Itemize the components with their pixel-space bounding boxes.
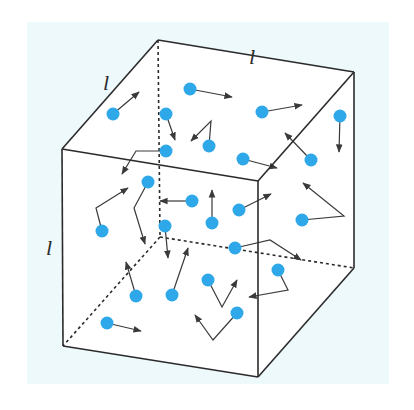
gas-molecule xyxy=(231,307,244,320)
edge-length-label-top-back-edge: l xyxy=(249,44,255,69)
gas-molecule xyxy=(233,204,246,217)
gas-molecule xyxy=(229,242,242,255)
cube-diagram: lll xyxy=(0,0,414,410)
gas-molecule xyxy=(101,317,114,330)
gas-molecule xyxy=(206,217,219,230)
gas-molecule xyxy=(305,154,318,167)
gas-molecule xyxy=(237,153,250,166)
gas-molecule xyxy=(160,108,173,121)
gas-molecule xyxy=(166,289,179,302)
gas-molecule xyxy=(296,214,309,227)
gas-molecule xyxy=(160,145,173,158)
gas-molecule xyxy=(186,195,199,208)
gas-molecule xyxy=(96,225,109,238)
gas-molecule xyxy=(272,264,285,277)
gas-molecule xyxy=(159,220,172,233)
edge-length-label-left-top-edge: l xyxy=(103,70,109,95)
gas-molecule xyxy=(142,176,155,189)
edge-length-label-front-left-edge: l xyxy=(46,235,52,260)
gas-molecule xyxy=(107,108,120,121)
gas-molecule xyxy=(202,274,215,287)
gas-molecule xyxy=(184,83,197,96)
gas-molecule xyxy=(256,106,269,119)
gas-molecule xyxy=(334,110,347,123)
cube-edge xyxy=(62,149,63,346)
gas-molecule xyxy=(130,290,143,303)
gas-molecule xyxy=(203,140,216,153)
